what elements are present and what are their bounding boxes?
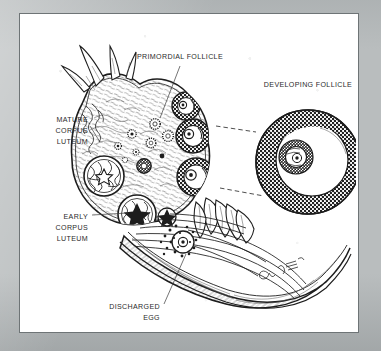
- growing-follicle: [176, 119, 210, 153]
- primordial-follicle: [163, 131, 174, 142]
- label-line: MATURE: [56, 116, 88, 124]
- inset-connector-upper: [216, 126, 256, 132]
- primordial-follicle: [150, 119, 160, 129]
- label-developing-follicle: DEVELOPING FOLLICLE: [264, 81, 352, 89]
- primordial-follicle: [133, 149, 139, 155]
- illustration-plate: PRIMORDIAL FOLLICLE DEVELOPING FOLLICLE …: [0, 0, 381, 351]
- inset-connector-lower: [220, 188, 264, 196]
- label-line: EARLY: [64, 213, 89, 221]
- ruptured-follicle: [158, 208, 177, 227]
- label-line: EGG: [143, 314, 160, 322]
- label-line: DISCHARGED: [109, 303, 160, 311]
- fallopian-tube: [120, 232, 351, 308]
- growing-follicle: [172, 92, 200, 120]
- label-mature-corpus-luteum: MATURE CORPUS LUTEUM: [56, 116, 88, 146]
- label-line: LUTEUM: [57, 235, 88, 243]
- oocyte-group: [279, 140, 313, 174]
- ovary-figure: PRIMORDIAL FOLLICLE DEVELOPING FOLLICLE …: [20, 14, 356, 330]
- mature-corpus-luteum: [84, 156, 124, 196]
- label-line: CORPUS: [56, 127, 88, 135]
- primordial-follicle: [115, 143, 122, 150]
- label-primordial-follicle: PRIMORDIAL FOLLICLE: [137, 53, 223, 61]
- label-early-corpus-luteum: EARLY CORPUS LUTEUM: [56, 213, 88, 243]
- primordial-follicle: [146, 138, 156, 148]
- nucleolus: [295, 156, 298, 159]
- primordial-follicle: [160, 154, 165, 159]
- label-line: CORPUS: [56, 224, 88, 232]
- illustration-page: PRIMORDIAL FOLLICLE DEVELOPING FOLLICLE …: [19, 13, 359, 333]
- label-discharged-egg: DISCHARGED EGG: [109, 303, 160, 322]
- tube-wall: [120, 236, 350, 308]
- primordial-follicle: [128, 130, 136, 138]
- developing-follicle-inset: [256, 110, 356, 214]
- primordial-follicle: [137, 159, 151, 173]
- label-line: LUTEUM: [57, 138, 88, 146]
- primordial-follicle: [122, 157, 127, 162]
